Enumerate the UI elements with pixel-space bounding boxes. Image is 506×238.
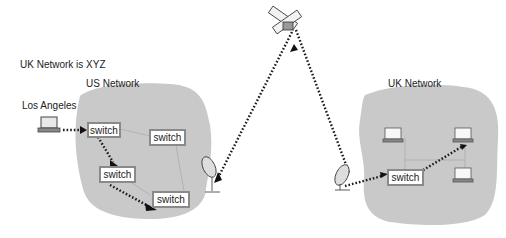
us-switch-2: switch — [149, 129, 186, 146]
network-diagram: UK Network is XYZ US Network UK Network … — [0, 0, 506, 238]
us-network-cloud — [76, 83, 212, 219]
path-dish-satellite — [218, 30, 293, 178]
laptop-icon — [38, 117, 60, 132]
us-switch-3: switch — [99, 166, 136, 183]
uk-network-cloud — [359, 85, 498, 225]
uk-switch-1: switch — [387, 169, 424, 186]
path-satellite-dish — [296, 30, 348, 170]
us-switch-4: switch — [152, 191, 190, 208]
los-angeles-label: Los Angeles — [22, 100, 77, 111]
satellite-icon — [268, 6, 301, 34]
caption-label: UK Network is XYZ — [20, 59, 106, 70]
us-switch-1: switch — [87, 122, 121, 138]
us-network-label: US Network — [86, 78, 139, 89]
uk-network-label: UK Network — [388, 78, 441, 89]
diagram-graphics — [0, 0, 506, 238]
